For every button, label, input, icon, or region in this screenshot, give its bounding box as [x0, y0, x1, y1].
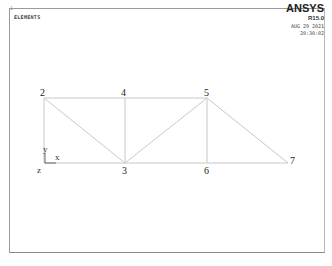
node-label-2: 2 — [40, 88, 45, 98]
element-5-7 — [207, 98, 288, 163]
node-label-3: 3 — [122, 166, 127, 176]
element-3-5 — [125, 98, 207, 163]
node-label-5: 5 — [204, 88, 209, 98]
truss-elements-plot[interactable] — [0, 0, 332, 266]
node-label-4: 4 — [121, 88, 126, 98]
node-label-6: 6 — [204, 166, 209, 176]
node-label-7: 7 — [290, 156, 295, 166]
triad-z-label: z — [37, 166, 41, 175]
triad-y-label: y — [43, 145, 48, 154]
triad-x-label: x — [55, 153, 60, 162]
